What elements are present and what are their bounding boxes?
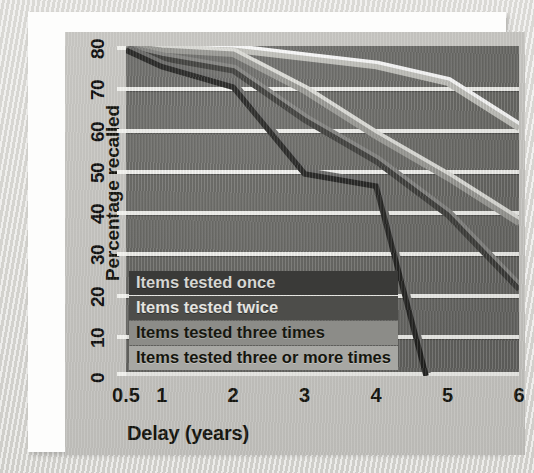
y-tick-label: 0 xyxy=(87,373,109,383)
y-tick-label: 60 xyxy=(87,121,109,141)
y-tick-mark xyxy=(117,46,126,50)
y-tick-label: 40 xyxy=(87,204,109,224)
legend-item-tested-once: Items tested once xyxy=(129,271,398,295)
x-tick-label: 6 xyxy=(513,384,524,407)
y-tick-mark xyxy=(117,372,126,376)
x-tick-label: 4 xyxy=(371,384,382,407)
y-tick-label: 10 xyxy=(87,328,109,348)
y-tick-mark xyxy=(117,294,126,298)
y-tick-mark xyxy=(117,252,126,256)
y-tick-label: 50 xyxy=(87,163,109,183)
x-tick-label: 5 xyxy=(442,384,453,407)
y-tick-mark xyxy=(117,335,126,339)
x-tick-label: 3 xyxy=(299,384,310,407)
y-tick-mark xyxy=(117,87,126,91)
y-tick-mark xyxy=(117,129,126,133)
x-tick-label: 2 xyxy=(228,384,239,407)
y-tick-label: 30 xyxy=(87,245,109,265)
series-line-highlight xyxy=(128,48,520,287)
y-tick-label: 70 xyxy=(87,80,109,100)
legend-item-tested-three-or-more-times: Items tested three or more times xyxy=(129,346,398,370)
chart-legend: Items tested once Items tested twice Ite… xyxy=(129,271,398,371)
y-tick-label: 20 xyxy=(87,286,109,306)
y-axis-title: Percentage recalled xyxy=(102,83,124,303)
y-tick-label: 80 xyxy=(87,39,109,59)
y-tick-mark xyxy=(117,170,126,174)
legend-item-tested-three-times: Items tested three times xyxy=(129,321,398,345)
x-tick-label: 1 xyxy=(156,384,167,407)
figure-frame: Percentage recalled 01020304050607080 0.… xyxy=(28,12,506,452)
legend-item-tested-twice: Items tested twice xyxy=(129,296,398,320)
x-tick-label: 0.5 xyxy=(112,384,140,407)
y-tick-mark xyxy=(117,211,126,215)
chart-panel: Percentage recalled 01020304050607080 0.… xyxy=(65,32,525,455)
x-axis-title: Delay (years) xyxy=(127,422,249,445)
